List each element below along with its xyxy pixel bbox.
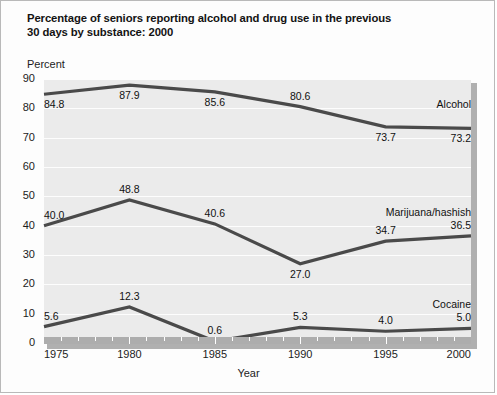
x-tick-minor [232,337,233,341]
x-tick-minor [334,337,335,341]
y-axis-tick-label: 70 [1,131,35,143]
x-tick-minor [369,337,370,341]
x-axis-tick-label: 1980 [117,348,141,360]
x-tick-minor [266,337,267,341]
chart-title: Percentage of seniors reporting alcohol … [27,11,467,39]
y-axis-tick-label: 40 [1,219,35,231]
y-axis-tick-label: 60 [1,160,35,172]
x-tick-minor [420,337,421,341]
x-tick-minor [61,337,62,341]
y-axis-tick-label: 0 [1,336,35,348]
x-tick-minor [181,337,182,341]
x-axis-tick-label: 1985 [203,348,227,360]
x-tick-major [300,337,301,344]
data-point-label: 4.0 [378,314,393,326]
x-tick-minor [317,337,318,341]
x-tick-minor [283,337,284,341]
data-point-label: 5.0 [456,311,471,323]
x-tick-minor [198,337,199,341]
x-tick-major [386,337,387,344]
x-tick-minor [112,337,113,341]
y-axis-title: Percent [27,58,65,70]
data-point-label: 48.8 [119,183,139,195]
x-axis-title: Year [1,367,495,379]
y-axis-tick-label: 50 [1,189,35,201]
data-point-label: 27.0 [290,268,310,280]
data-point-label: 12.3 [119,290,139,302]
x-tick-minor [403,337,404,341]
series-label: Cocaine [432,298,471,310]
chart-title-line-2: 30 days by substance: 2000 [27,25,467,39]
data-point-label: 84.8 [44,98,64,110]
chart-title-line-1: Percentage of seniors reporting alcohol … [27,12,391,24]
x-tick-major [215,337,216,344]
data-point-label: 40.0 [44,209,64,221]
series-line [44,85,471,128]
x-tick-minor [454,337,455,341]
x-tick-minor [78,337,79,341]
data-point-label: 0.6 [207,324,222,336]
data-point-label: 5.3 [293,310,308,322]
x-tick-minor [249,337,250,341]
x-tick-major [129,337,130,344]
x-axis-baseline [44,337,471,344]
x-tick-minor [146,337,147,341]
y-axis-tick-label: 20 [1,277,35,289]
x-tick-minor [437,337,438,341]
data-point-label: 85.6 [205,96,225,108]
y-axis-tick-label: 90 [1,72,35,84]
data-point-label: 73.7 [375,131,395,143]
data-point-label: 34.7 [375,224,395,236]
x-tick-minor [95,337,96,341]
series-label: Marijuana/hashish [386,206,471,218]
y-axis-tick-label: 10 [1,307,35,319]
data-point-label: 73.2 [451,132,471,144]
data-point-label: 36.5 [451,219,471,231]
series-label: Alcohol [437,98,471,110]
x-axis-tick-label: 2000 [447,348,471,360]
x-axis-tick-label: 1995 [373,348,397,360]
y-axis-tick-label: 30 [1,248,35,260]
data-point-label: 40.6 [205,207,225,219]
plot-area: 84.887.985.680.673.773.240.048.840.627.0… [44,79,471,343]
chart-figure: Percentage of seniors reporting alcohol … [0,0,495,393]
x-axis-tick-label: 1975 [44,348,68,360]
x-tick-minor [164,337,165,341]
x-axis-tick-label: 1990 [288,348,312,360]
data-point-label: 80.6 [290,90,310,102]
x-tick-minor [351,337,352,341]
plot-shadow-right [471,83,477,349]
data-point-label: 5.6 [44,310,59,322]
y-axis-tick-label: 80 [1,101,35,113]
data-point-label: 87.9 [119,89,139,101]
